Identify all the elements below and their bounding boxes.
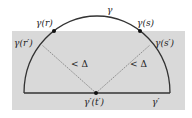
label-gamma-s-prime: γ(s′) (155, 38, 175, 48)
label-less-delta-left: < Δ (71, 59, 88, 69)
diagram-canvas: γ γ(r) γ(s) γ(r′) γ(s′) < Δ < Δ γ′(t′) γ… (0, 0, 192, 118)
label-gamma-prime-t-prime: γ′(t′) (84, 97, 105, 107)
point-gamma-r (52, 29, 56, 33)
label-gamma-s: γ(s) (137, 18, 155, 28)
label-less-delta-right: < Δ (130, 59, 147, 69)
label-gamma-prime: γ′ (152, 97, 159, 107)
point-gamma-prime-t-prime (94, 91, 98, 95)
label-gamma-r-prime: γ(r′) (14, 38, 33, 48)
point-gamma-s (138, 29, 142, 33)
label-gamma: γ (107, 5, 113, 15)
label-gamma-r: γ(r) (36, 18, 53, 28)
